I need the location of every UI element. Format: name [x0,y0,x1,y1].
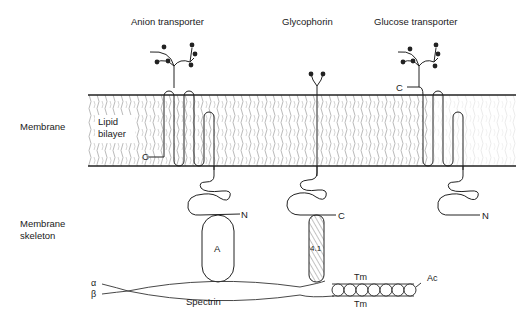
actin-label: Ac [427,273,438,284]
glycophorin-c-terminus: C [338,210,345,221]
band-4-1-label: 4.1 [310,243,321,254]
glucose-n-terminus: N [482,210,489,221]
label-membrane: Membrane [20,121,65,132]
anion-n-terminus: N [241,209,248,220]
label-membrane-skeleton-1: Membrane [20,218,65,229]
tropomyosin-top-label: Tm [354,272,367,283]
beta-spectrin-label: β [91,289,96,300]
cell-membrane-diagram [0,0,532,325]
label-bilayer: bilayer [98,128,126,139]
anion-c-terminus: C [142,151,149,162]
tropomyosin-bottom-label: Tm [354,299,367,310]
spectrin-label: Spectrin [186,296,221,307]
alpha-spectrin-label: α [91,278,96,289]
title-glycophorin: Glycophorin [282,16,333,27]
lipid-bilayer [88,95,516,166]
glucose-c-terminus: C [396,82,403,93]
label-membrane-skeleton-2: skeleton [20,230,55,241]
ankyrin-label: A [214,243,220,254]
title-anion-transporter: Anion transporter [131,16,204,27]
label-lipid: Lipid [98,116,118,127]
actin-filament [332,283,421,296]
title-glucose-transporter: Glucose transporter [374,16,457,27]
